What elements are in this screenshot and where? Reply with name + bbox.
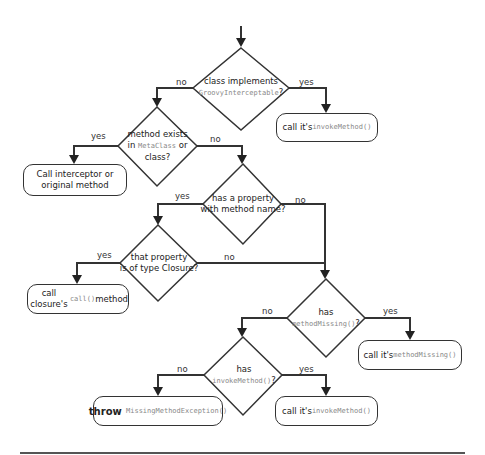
decision-d6-code: invokeMethod(): [212, 377, 271, 385]
decision-d3-line2: with method name?: [199, 204, 287, 215]
action-a2-line2: original method: [41, 180, 108, 191]
action-a4-prefix: call it's: [364, 350, 394, 361]
decision-d6-text: has invokeMethod()?: [200, 364, 288, 387]
edge-label-d2-no: no: [210, 134, 221, 144]
decision-d2-line1: method exists: [118, 129, 197, 140]
decision-d4-text: that property is of type Closure?: [116, 252, 202, 274]
decision-d2-suffix: or: [176, 140, 187, 150]
action-call-methodmissing: call it's methodMissing(): [358, 340, 462, 370]
action-a1-code: invokeMethod(): [312, 122, 371, 133]
edge-label-d6-yes: yes: [299, 364, 314, 374]
edge-label-d4-yes: yes: [97, 250, 112, 260]
action-a1-prefix: call it's: [283, 122, 313, 133]
edge-label-d1-no: no: [176, 77, 187, 87]
bottom-divider: [20, 452, 465, 454]
decision-d4-line1: that property: [116, 252, 202, 263]
action-a2-line1: Call interceptor or: [37, 169, 114, 180]
action-a5-throw: throw: [89, 406, 122, 417]
action-call-invokemethod-bottom: call it's invokeMethod(): [275, 396, 378, 426]
action-a5-code: MissingMethodException(): [122, 406, 227, 417]
decision-d1-line1: class implements: [193, 76, 289, 87]
decision-d3-text: has a property with method name?: [199, 193, 287, 215]
decision-d5-suffix: ?: [355, 318, 360, 328]
action-throw-exception: throw MissingMethodException(): [93, 396, 223, 426]
action-call-invokemethod-top: call it's invokeMethod(): [276, 113, 378, 142]
decision-d1-text: class implements GroovyInterceptable?: [193, 76, 289, 99]
action-a6-prefix: call it's: [282, 406, 312, 417]
decision-d5-code: methodMissing(): [292, 320, 355, 328]
edge-label-d4-no: no: [224, 252, 235, 262]
action-call-closure: call closure's call() method: [27, 284, 129, 314]
action-a3-suffix: method: [95, 294, 128, 305]
edge-label-d5-yes: yes: [383, 306, 398, 316]
action-call-interceptor: Call interceptor or original method: [23, 164, 127, 196]
edge-label-d6-no: no: [177, 364, 188, 374]
edge-label-d3-yes: yes: [175, 191, 190, 201]
decision-d1-code: GroovyInterceptable: [199, 89, 279, 97]
decision-d2-code: MetaClass: [138, 142, 176, 150]
decision-d5-line1: has: [282, 307, 370, 318]
decision-d6-line1: has: [200, 364, 288, 375]
decision-d4-line2: is of type Closure?: [116, 263, 202, 274]
edge-label-d3-no: no: [295, 195, 306, 205]
decision-d6-suffix: ?: [271, 375, 276, 385]
action-a3-prefix: call closure's: [28, 288, 70, 310]
action-a4-code: methodMissing(): [393, 350, 456, 361]
decision-d2-line3: class?: [118, 152, 197, 163]
edge-label-d2-yes: yes: [91, 131, 106, 141]
action-a3-code: call(): [70, 294, 95, 305]
action-a6-code: invokeMethod(): [312, 406, 371, 417]
decision-d2-text: method exists in MetaClass or class?: [118, 129, 197, 163]
decision-d5-text: has methodMissing()?: [282, 307, 370, 330]
edge-label-d5-no: no: [262, 306, 273, 316]
decision-d2-prefix: in: [128, 140, 138, 150]
decision-d3-line1: has a property: [199, 193, 287, 204]
decision-d1-suffix: ?: [279, 87, 284, 97]
edge-label-d1-yes: yes: [299, 77, 314, 87]
